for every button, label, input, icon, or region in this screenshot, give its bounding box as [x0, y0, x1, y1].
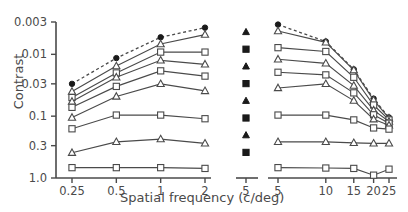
- data-point-square-open: [371, 125, 377, 131]
- plot-area: 0.0030.010.030.10.31.00.250.512551015202…: [0, 0, 408, 212]
- symbol-key-triangle-filled: [243, 132, 250, 138]
- data-point-triangle-open: [157, 135, 164, 142]
- data-point-square-open: [275, 45, 281, 51]
- symbol-key-triangle-filled: [243, 28, 250, 34]
- y-axis-tick-label: 0.3: [29, 139, 47, 153]
- data-point-square-open: [69, 165, 75, 171]
- data-point-triangle-open: [350, 82, 357, 89]
- data-point-square-open: [323, 48, 329, 54]
- data-point-square-open: [351, 74, 357, 80]
- data-point-circle-filled: [69, 81, 74, 86]
- data-point-square-open: [69, 126, 75, 132]
- data-point-square-open: [323, 165, 329, 171]
- series-line-left: [72, 71, 205, 107]
- chart-figure: Contrast Spatial frequency (c/deg) 0.003…: [0, 0, 408, 212]
- data-point-square-open: [158, 165, 164, 171]
- series-line-left: [72, 139, 205, 153]
- y-axis-tick-label: 0.003: [14, 15, 47, 29]
- y-axis-tick-label: 0.03: [21, 77, 47, 91]
- data-point-square-open: [351, 165, 357, 171]
- data-point-square-open: [386, 166, 392, 172]
- data-point-square-open: [386, 126, 392, 132]
- data-point-square-open: [323, 72, 329, 78]
- x-axis-tick-label: 2: [201, 184, 208, 198]
- data-point-square-open: [158, 112, 164, 118]
- data-point-triangle-open: [68, 114, 75, 121]
- y-axis-tick-label: 1.0: [29, 171, 47, 185]
- x-axis-tick-label: 0.25: [59, 184, 85, 198]
- x-axis-tick-label: 5: [242, 184, 249, 198]
- y-axis-tick-label: 0.1: [29, 109, 47, 123]
- series-line-left: [72, 60, 205, 101]
- symbol-key-triangle-filled: [243, 97, 250, 103]
- data-point-circle-filled: [202, 25, 207, 30]
- data-point-square-open: [275, 165, 281, 171]
- symbol-key-square-filled: [243, 149, 249, 155]
- x-axis-tick-label: 5: [274, 184, 281, 198]
- data-point-triangle-open: [350, 97, 357, 104]
- data-point-triangle-open: [201, 31, 208, 37]
- data-point-triangle-open: [68, 88, 75, 95]
- data-point-triangle-open: [274, 55, 281, 62]
- data-point-square-open: [351, 117, 357, 123]
- data-point-square-open: [158, 49, 164, 55]
- data-point-triangle-open: [157, 57, 164, 64]
- data-point-triangle-open: [322, 80, 329, 87]
- data-point-square-open: [113, 112, 119, 118]
- x-axis-tick-label: 25: [382, 184, 397, 198]
- data-point-triangle-open: [113, 62, 120, 69]
- x-axis-tick-label: 0.5: [107, 184, 125, 198]
- data-point-square-open: [202, 165, 208, 171]
- data-point-circle-filled: [114, 55, 119, 60]
- data-point-square-open: [275, 112, 281, 118]
- data-point-square-open: [69, 104, 75, 110]
- data-point-square-open: [202, 49, 208, 55]
- x-axis-tick-label: 1: [157, 184, 164, 198]
- symbol-key-square-filled: [243, 46, 249, 52]
- x-axis-tick-label: 15: [346, 184, 361, 198]
- x-axis-tick-label: 20: [366, 184, 381, 198]
- symbol-key-square-filled: [243, 115, 249, 121]
- data-point-square-open: [202, 116, 208, 122]
- series-line-left: [72, 28, 205, 84]
- symbol-key-square-filled: [243, 81, 249, 87]
- data-point-square-open: [323, 112, 329, 118]
- y-axis-tick-label: 0.01: [21, 47, 47, 61]
- data-point-square-open: [113, 83, 119, 89]
- series-line-left: [72, 84, 205, 118]
- data-point-square-open: [113, 165, 119, 171]
- symbol-key-triangle-filled: [243, 63, 250, 69]
- data-point-triangle-open: [157, 80, 164, 87]
- data-point-square-open: [275, 69, 281, 75]
- series-line-left: [72, 168, 205, 169]
- data-point-square-open: [371, 172, 377, 178]
- data-point-square-open: [351, 90, 357, 96]
- series-line-left: [72, 115, 205, 129]
- data-point-square-open: [158, 68, 164, 74]
- x-axis-tick-label: 10: [318, 184, 333, 198]
- data-point-triangle-open: [274, 27, 281, 34]
- data-point-square-open: [202, 73, 208, 79]
